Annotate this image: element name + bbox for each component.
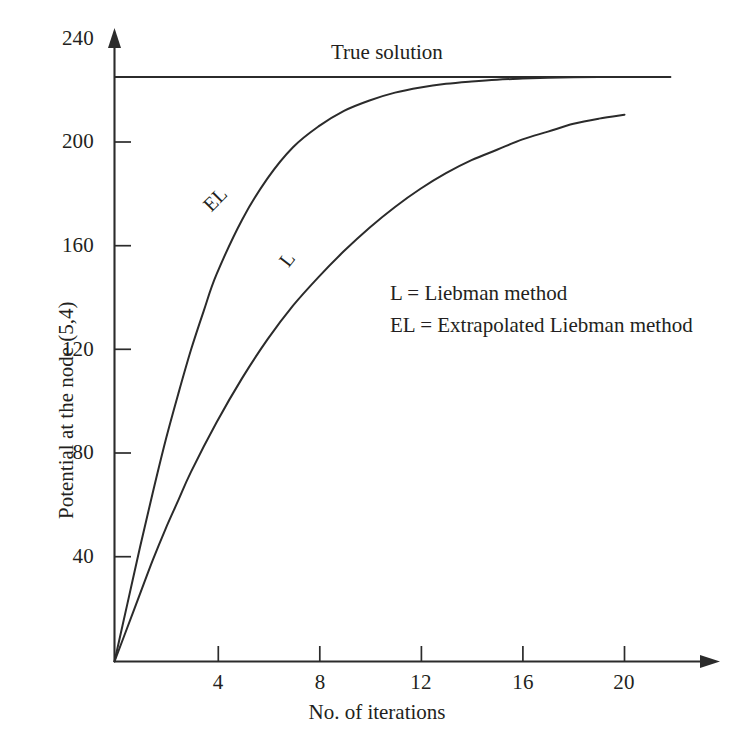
y-tick-label-40: 40: [26, 544, 94, 569]
legend-entry-l: L = Liebman method: [390, 278, 693, 310]
y-tick-label-240: 240: [26, 26, 94, 51]
x-axis-title: No. of iterations: [0, 700, 754, 725]
x-tick-label-4: 4: [188, 670, 248, 695]
chart-figure: 240 200 160 120 80 40 4 8 12 16 20 Poten…: [0, 0, 754, 749]
series-curve-l: [115, 115, 625, 662]
legend-entry-el: EL = Extrapolated Liebman method: [390, 310, 693, 342]
y-tick-label-160: 160: [26, 233, 94, 258]
y-tick-marks: [115, 142, 132, 557]
y-axis-arrow-icon: [108, 28, 121, 48]
true-solution-label: True solution: [331, 40, 443, 65]
legend: L = Liebman method EL = Extrapolated Lie…: [390, 278, 693, 342]
x-tick-label-20: 20: [594, 670, 654, 695]
x-tick-label-12: 12: [391, 670, 451, 695]
plot-canvas: [0, 0, 754, 749]
y-axis-title: Potential at the node (5,4): [54, 301, 79, 519]
series-curve-el: [115, 77, 671, 661]
x-tick-label-16: 16: [493, 670, 553, 695]
y-tick-label-200: 200: [26, 129, 94, 154]
x-axis-arrow-icon: [700, 655, 720, 668]
x-tick-label-8: 8: [290, 670, 350, 695]
x-tick-marks: [218, 646, 624, 662]
